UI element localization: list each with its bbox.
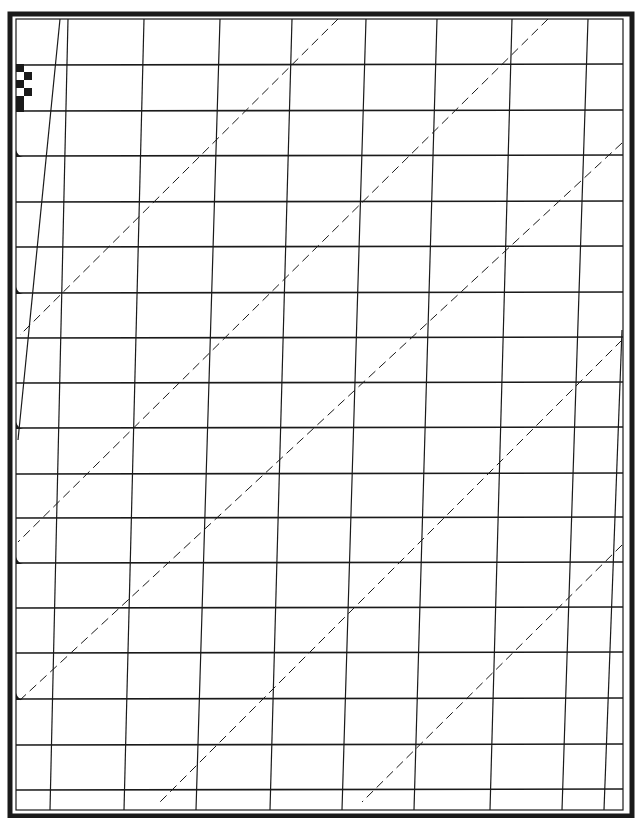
ruled-line <box>16 652 623 653</box>
checker-cell <box>16 104 24 112</box>
ruled-line <box>16 337 623 338</box>
ruled-line <box>16 607 623 608</box>
ruled-line <box>16 698 623 699</box>
ruled-line <box>16 382 623 383</box>
ruled-line <box>16 562 623 563</box>
checker-cell <box>16 96 24 104</box>
sheet-drawing <box>0 0 640 818</box>
paper-background <box>0 0 640 818</box>
ruled-line <box>16 427 623 428</box>
ruled-line <box>16 155 623 156</box>
ruled-line <box>16 517 623 518</box>
ruled-line <box>16 744 623 745</box>
ruled-line <box>16 789 623 790</box>
checker-cell <box>24 72 32 80</box>
ruled-guide-sheet <box>0 0 640 818</box>
checker-cell <box>16 64 24 72</box>
ruled-line <box>16 473 623 474</box>
checker-cell <box>16 80 24 88</box>
ruled-line <box>16 64 623 65</box>
ruled-line <box>16 110 623 111</box>
checker-cell <box>24 88 32 96</box>
ruled-line <box>16 246 623 247</box>
ruled-line <box>16 201 623 202</box>
ruled-line <box>16 292 623 293</box>
